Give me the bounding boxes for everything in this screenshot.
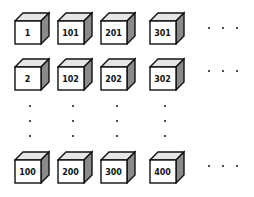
ellipsis-dot (236, 27, 238, 29)
ellipsis-dot (116, 120, 118, 122)
ellipsis-dot (222, 70, 224, 72)
cube: 400 (149, 150, 185, 184)
ellipsis-dot (164, 135, 166, 137)
ellipsis-dot (29, 120, 31, 122)
ellipsis-dot (29, 105, 31, 107)
cube: 101 (57, 11, 93, 45)
cube: 202 (100, 57, 136, 91)
cube-label: 2 (15, 68, 40, 90)
cube-label: 1 (15, 22, 40, 44)
cube: 201 (100, 11, 136, 45)
cube: 2 (14, 57, 50, 91)
ellipsis-dot (116, 135, 118, 137)
ellipsis-dot (72, 120, 74, 122)
ellipsis-dot (29, 135, 31, 137)
ellipsis-dot (208, 165, 210, 167)
ellipsis-dot (72, 135, 74, 137)
cube-label: 102 (58, 68, 83, 90)
cube-label: 300 (101, 161, 126, 183)
cube: 1 (14, 11, 50, 45)
cube: 300 (100, 150, 136, 184)
cube: 100 (14, 150, 50, 184)
ellipsis-dot (222, 27, 224, 29)
ellipsis-dot (236, 70, 238, 72)
cube-label: 202 (101, 68, 126, 90)
ellipsis-dot (164, 105, 166, 107)
cube: 302 (149, 57, 185, 91)
cube: 200 (57, 150, 93, 184)
cube-label: 400 (150, 161, 175, 183)
ellipsis-dot (116, 105, 118, 107)
ellipsis-dot (164, 120, 166, 122)
ellipsis-dot (208, 70, 210, 72)
cube-label: 301 (150, 22, 175, 44)
ellipsis-dot (236, 165, 238, 167)
cube-label: 101 (58, 22, 83, 44)
cube: 301 (149, 11, 185, 45)
ellipsis-dot (222, 165, 224, 167)
cube-label: 100 (15, 161, 40, 183)
cube-label: 200 (58, 161, 83, 183)
ellipsis-dot (208, 27, 210, 29)
cube-label: 302 (150, 68, 175, 90)
cube: 102 (57, 57, 93, 91)
cube-label: 201 (101, 22, 126, 44)
ellipsis-dot (72, 105, 74, 107)
